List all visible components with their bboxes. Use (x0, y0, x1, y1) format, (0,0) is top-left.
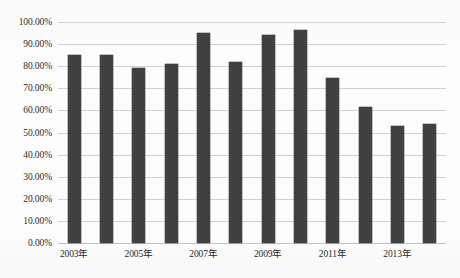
bar (229, 62, 242, 243)
y-tick-label: 100.00% (19, 17, 52, 27)
bar-series (58, 22, 446, 243)
bar (132, 68, 145, 243)
plot-area (58, 22, 446, 243)
y-tick-label: 20.00% (23, 194, 52, 204)
bar-chart: 100.00%90.00%80.00%70.00%60.00%50.00%40.… (0, 0, 460, 278)
bar (100, 55, 113, 243)
y-tick-label: 70.00% (23, 83, 52, 93)
x-tick-label: 2007年 (189, 246, 218, 260)
bar (391, 126, 404, 243)
y-tick-label: 60.00% (23, 105, 52, 115)
bar (262, 35, 275, 243)
y-axis: 100.00%90.00%80.00%70.00%60.00%50.00%40.… (0, 0, 58, 278)
y-tick-label: 80.00% (23, 61, 52, 71)
bar (294, 30, 307, 243)
bar (423, 124, 436, 243)
bar (326, 78, 339, 243)
y-tick-label: 90.00% (23, 39, 52, 49)
x-tick-label: 2005年 (125, 246, 154, 260)
bar (165, 64, 178, 243)
x-tick-label: 2013年 (383, 246, 412, 260)
axis-baseline (58, 243, 446, 244)
x-tick-label: 2011年 (319, 246, 347, 260)
x-tick-label: 2003年 (60, 246, 89, 260)
x-tick-label: 2009年 (254, 246, 283, 260)
y-tick-label: 40.00% (23, 150, 52, 160)
bar (197, 33, 210, 243)
y-tick-label: 10.00% (23, 216, 52, 226)
y-tick-label: 0.00% (28, 238, 52, 248)
y-tick-label: 30.00% (23, 172, 52, 182)
bar (359, 107, 372, 243)
bar (68, 55, 81, 243)
x-axis: 2003年2005年2007年2009年2011年2013年 (58, 246, 446, 266)
y-tick-label: 50.00% (23, 128, 52, 138)
